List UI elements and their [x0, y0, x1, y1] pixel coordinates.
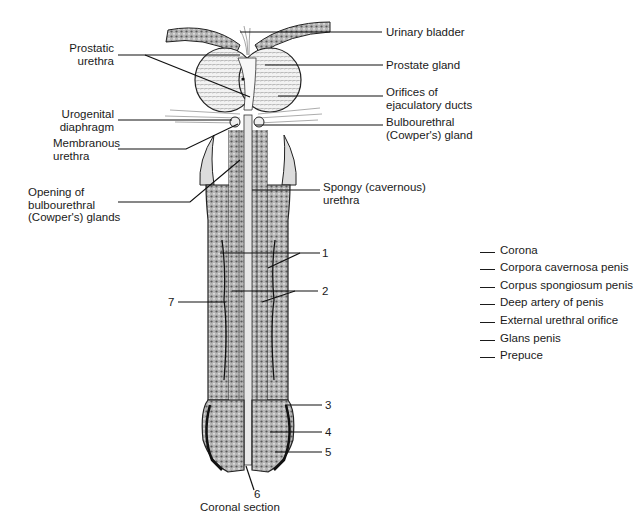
label-bulbourethral-gland: Bulbourethral (Cowper's) gland: [386, 116, 473, 141]
answer-blank[interactable]: [480, 357, 495, 358]
label-prostate-gland: Prostate gland: [386, 59, 460, 72]
number-7: 7: [168, 296, 174, 308]
answer-list: Corona Corpora cavernosa penis Corpus sp…: [480, 238, 633, 361]
number-2: 2: [322, 285, 328, 297]
crus-right: [282, 135, 296, 185]
number-5: 5: [325, 446, 331, 458]
answer-item: Corona: [480, 238, 633, 256]
answer-item: Prepuce: [480, 344, 633, 362]
answer-item: Corpus spongiosum penis: [480, 273, 633, 291]
label-urogenital-diaphragm: Urogenital diaphragm: [52, 108, 114, 133]
answer-blank[interactable]: [480, 322, 495, 323]
answer-blank[interactable]: [480, 304, 495, 305]
number-6: 6: [254, 488, 260, 500]
label-opening-bulbourethral: Opening of bulbourethral (Cowper's) glan…: [28, 186, 120, 224]
answer-blank[interactable]: [480, 252, 495, 253]
label-orifices-ejaculatory-ducts: Orifices of ejaculatory ducts: [386, 86, 472, 111]
label-spongy-urethra: Spongy (cavernous) urethra: [323, 181, 426, 206]
number-4: 4: [325, 426, 331, 438]
prostate-gland: [195, 48, 301, 112]
label-membranous-urethra: Membranous urethra: [53, 137, 120, 162]
label-prostatic-urethra: Prostatic urethra: [58, 42, 114, 67]
number-1: 1: [322, 247, 328, 259]
label-urinary-bladder: Urinary bladder: [386, 26, 465, 39]
urinary-bladder-wall: [166, 22, 330, 55]
answer-blank[interactable]: [480, 269, 495, 270]
urogenital-diaphragm: [165, 108, 322, 123]
answer-item: External urethral orifice: [480, 308, 633, 326]
answer-item: Deep artery of penis: [480, 291, 633, 309]
number-3: 3: [325, 399, 331, 411]
answer-blank[interactable]: [480, 287, 495, 288]
crus-left: [200, 135, 214, 185]
answer-item: Corpora cavernosa penis: [480, 256, 633, 274]
caption-coronal-section: Coronal section: [200, 501, 280, 513]
answer-blank[interactable]: [480, 340, 495, 341]
answer-item: Glans penis: [480, 326, 633, 344]
